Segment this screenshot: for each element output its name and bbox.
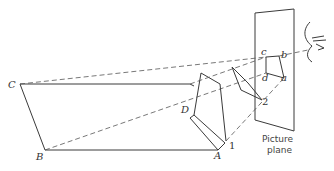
band-edge-1 <box>190 84 194 86</box>
eye-icon <box>305 22 326 62</box>
label-B: B <box>35 151 43 162</box>
label-D: D <box>180 104 189 115</box>
band-end <box>218 143 225 150</box>
ray-B <box>45 73 266 150</box>
label-a: a <box>281 72 287 83</box>
band-upper <box>194 115 225 143</box>
band-top <box>190 115 194 118</box>
label-b: b <box>281 49 287 60</box>
panel <box>194 73 226 141</box>
caption-line1: Picture <box>262 134 293 144</box>
edge-CB <box>20 84 45 150</box>
label-1: 1 <box>229 140 235 151</box>
label-2: 2 <box>262 96 268 107</box>
label-d: d <box>262 72 268 83</box>
label-C: C <box>8 79 16 90</box>
label-A: A <box>213 150 221 161</box>
picture-plane <box>255 9 294 131</box>
diagram-svg: C B A D 1 2 c b d a Picture plane <box>0 0 334 171</box>
band-lower <box>190 118 218 150</box>
perspective-diagram: C B A D 1 2 c b d a Picture plane <box>0 0 334 171</box>
caption-line2: plane <box>267 145 292 155</box>
label-c: c <box>261 46 267 57</box>
